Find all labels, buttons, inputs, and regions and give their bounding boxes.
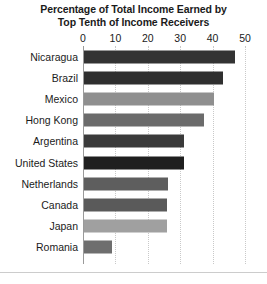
x-tick-label: 20: [142, 32, 154, 45]
bar: [84, 50, 235, 63]
bar: [84, 220, 167, 233]
bar-row: Brazil: [0, 67, 267, 88]
bar: [84, 156, 184, 169]
category-label: Canada: [0, 199, 78, 211]
bar-chart: Percentage of Total Income Earned by Top…: [0, 0, 267, 284]
category-label: Netherlands: [0, 178, 78, 190]
bar: [84, 71, 223, 84]
bottom-rule: [0, 272, 267, 273]
bar-row: Romania: [0, 237, 267, 258]
x-tick-label: 0: [80, 32, 86, 45]
bar-row: Mexico: [0, 88, 267, 109]
category-label: Hong Kong: [0, 114, 78, 126]
plot-area: 01020304050 NicaraguaBrazilMexicoHong Ko…: [0, 32, 267, 264]
category-label: Argentina: [0, 135, 78, 147]
chart-title: Percentage of Total Income Earned by Top…: [0, 0, 267, 29]
bar-row: Nicaragua: [0, 46, 267, 67]
chart-title-line-2: Top Tenth of Income Receivers: [0, 16, 267, 29]
bar-row: Argentina: [0, 131, 267, 152]
x-tick-label: 50: [239, 32, 251, 45]
bar-row: Canada: [0, 194, 267, 215]
bar: [84, 241, 112, 254]
bar-rows: NicaraguaBrazilMexicoHong KongArgentinaU…: [0, 46, 267, 264]
x-tick-label: 10: [110, 32, 122, 45]
bar-row: United States: [0, 152, 267, 173]
bar-row: Hong Kong: [0, 110, 267, 131]
category-label: Brazil: [0, 72, 78, 84]
chart-title-line-1: Percentage of Total Income Earned by: [0, 3, 267, 16]
bar-row: Japan: [0, 216, 267, 237]
bar: [84, 198, 167, 211]
category-label: Mexico: [0, 93, 78, 105]
bar-row: Netherlands: [0, 173, 267, 194]
bar: [84, 114, 204, 127]
category-label: Nicaragua: [0, 51, 78, 63]
bar: [84, 92, 214, 105]
category-label: Romania: [0, 241, 78, 253]
bar: [84, 177, 168, 190]
bar: [84, 135, 184, 148]
x-tick-label: 40: [207, 32, 219, 45]
x-axis-tick-labels: 01020304050: [83, 32, 245, 46]
x-tick-label: 30: [174, 32, 186, 45]
category-label: Japan: [0, 220, 78, 232]
category-label: United States: [0, 157, 78, 169]
